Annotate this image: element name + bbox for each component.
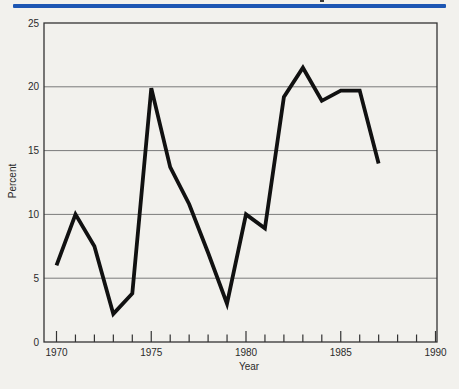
y-tick-label: 20 — [28, 81, 40, 92]
y-axis-label: Percent — [7, 164, 18, 199]
y-tick-label: 0 — [33, 337, 39, 348]
x-tick-label: 1975 — [140, 347, 163, 358]
x-tick-label: 1990 — [424, 347, 447, 358]
x-axis-label: Year — [239, 361, 260, 372]
x-tick-label: 1985 — [330, 347, 353, 358]
chart-generated-layer: 051015202519701975198019851990 — [28, 18, 447, 359]
data-line — [57, 68, 379, 314]
y-tick-label: 10 — [28, 209, 40, 220]
x-tick-label: 1980 — [235, 347, 258, 358]
y-tick-label: 5 — [33, 273, 39, 284]
y-tick-label: 15 — [28, 145, 40, 156]
line-chart: 051015202519701975198019851990 Percent Y… — [0, 0, 459, 389]
scanned-report-page: 051015202519701975198019851990 Percent Y… — [0, 0, 459, 389]
plot-frame — [44, 23, 437, 342]
y-tick-label: 25 — [28, 18, 40, 29]
x-tick-label: 1970 — [45, 347, 68, 358]
